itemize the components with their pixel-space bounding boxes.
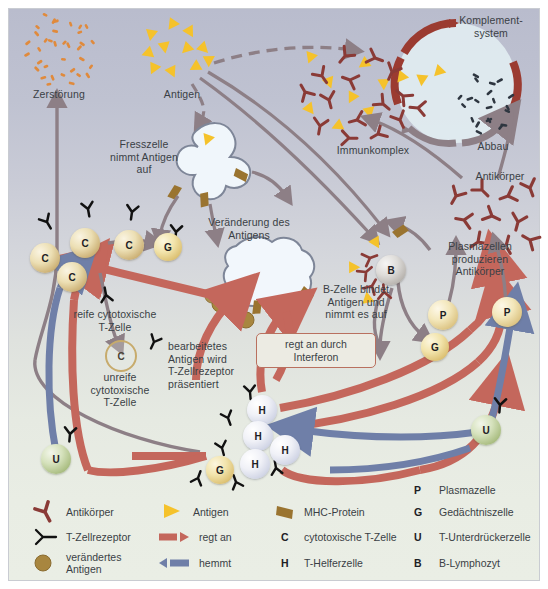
plasma-cell-2: P [492,297,522,327]
label-abbau: Abbau [462,140,524,153]
cytotoxic-t-cell-1: C [30,243,60,273]
label-bzelle-bindet: B-Zelle bindet Antigen und nimmt es auf [300,283,412,321]
cytotoxic-t-cell-3: C [114,230,144,260]
memory-cell-2: G [421,333,449,361]
helper-t-cell-4: H [270,435,300,465]
legend-label-plasmazelle: Plasmazelle [439,484,496,496]
legend-label-tcell-rezeptor: T-Zellrezeptor [66,531,131,543]
label-bearbeitetes-antigen: bearbeitetes Antigen wird T-Zellrezeptor… [168,340,268,390]
label-zerstoerung: Zerstörung [14,88,104,101]
legend-label-t-helferzelle: T-Helferzelle [304,557,363,569]
legend-key-u: U [414,531,422,543]
label-reife-cytotoxische-t-zelle: reife cytotoxische T-Zelle [56,308,174,333]
interferon-callout: regt an durch Interferon [256,333,376,368]
legend-label-regt-an: regt an [199,531,232,543]
legend-key-h: H [281,557,289,569]
legend-label-antikoerper: Antikörper [66,506,114,518]
memory-cell-3: G [206,456,234,484]
stimulates-arrow-icon [159,532,189,542]
label-fresszelle: Fresszelle nimmt Antigen auf [96,138,192,176]
suppressor-t-cell-right: U [471,415,501,445]
altered-antigen-icon [35,555,51,571]
cytotoxic-t-cell-4: C [57,262,87,292]
mhc-protein-icon [276,506,293,519]
memory-cell-1: G [154,233,182,261]
label-antikoerper: Antikörper [462,170,538,183]
antibody-icon [35,502,56,524]
legend-label-verandertes-antigen: verändertes Antigen [66,551,121,575]
tcell-receptor-icon [36,530,56,544]
legend-label-b-lymphozyt: B-Lymphozyt [439,557,500,569]
helper-t-cell-2: H [243,421,273,451]
immune-response-diagram: C C C C C G G G H H H H P P U U B Zerstö… [0,0,548,589]
cytotoxic-t-cell-2: C [70,228,100,258]
legend-key-b: B [414,557,422,569]
legend-key-p: P [414,484,421,496]
b-lymphocyte: B [376,255,406,285]
label-immunkomplex: Immunkomplex [320,144,426,157]
legend-label-cytotoxische-t-zelle: cytotoxische T-Zelle [304,531,397,543]
legend-key-c: C [281,531,289,543]
legend-label-antigen: Antigen [193,506,229,518]
label-plasmazellen: Plasmazellen produzieren Antikörper [424,240,536,278]
immature-cytotoxic-t-cell: C [105,340,137,372]
label-antigen: Antigen [140,88,224,101]
legend-label-gedaechtniszelle: Gedächtniszelle [439,506,514,518]
helper-t-cell-1: H [247,395,277,425]
legend-label-hemmt: hemmt [199,557,231,569]
antigen-icon [164,504,180,518]
label-veraenderung-antigens: Veränderung des Antigens [190,216,308,241]
legend: Antikörper T-Zellrezeptor verändertes An… [9,484,539,580]
legend-label-mhc-protein: MHC-Protein [304,506,365,518]
legend-key-g: G [414,506,422,518]
legend-label-t-unterdrueckerzelle: T-Unterdrückerzelle [439,531,531,543]
suppressor-t-cell-left: U [41,444,71,474]
label-komplementsystem: Komplement- system [442,14,540,39]
label-unreife-cytotoxische-t-zelle: unreife cytotoxische T-Zelle [72,371,168,409]
plasma-cell-1: P [428,300,458,330]
helper-t-cell-3: H [240,449,270,479]
inhibits-arrow-icon [159,558,189,568]
